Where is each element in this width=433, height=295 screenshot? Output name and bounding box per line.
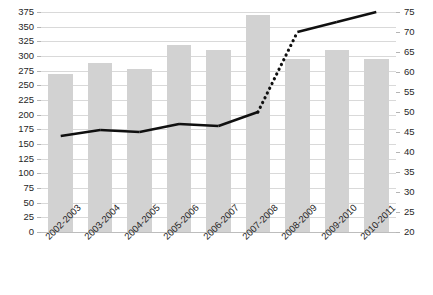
y-tick-label-right: 70 <box>404 27 415 37</box>
y-tick-right <box>396 232 400 233</box>
line-segment <box>140 124 179 132</box>
y-tick-label-left: 350 <box>18 22 34 32</box>
y-tick-right <box>396 92 400 93</box>
y-tick-label-left: 25 <box>23 212 34 222</box>
y-tick-label-right: 25 <box>404 207 415 217</box>
y-tick-right <box>396 192 400 193</box>
line-segment <box>258 32 297 112</box>
chart-title <box>0 0 433 2</box>
y-tick-label-left: 50 <box>23 198 34 208</box>
y-tick-label-right: 60 <box>404 67 415 77</box>
y-tick-right <box>396 172 400 173</box>
y-tick-label-right: 75 <box>404 7 415 17</box>
y-tick-label-right: 45 <box>404 127 415 137</box>
y-tick-right <box>396 112 400 113</box>
y-tick-label-right: 55 <box>404 87 415 97</box>
y-tick-right <box>396 52 400 53</box>
line-segment <box>100 130 139 132</box>
y-tick-label-left: 150 <box>18 139 34 149</box>
y-tick-label-left: 225 <box>18 95 34 105</box>
y-tick-label-left: 325 <box>18 36 34 46</box>
line-segment <box>219 112 258 126</box>
y-tick-label-left: 125 <box>18 154 34 164</box>
line-segment <box>179 124 218 126</box>
y-tick-right <box>396 32 400 33</box>
x-axis-labels: 2002-20032003-20042004-20052005-20062006… <box>41 234 396 294</box>
y-tick-label-left: 175 <box>18 124 34 134</box>
y-tick-label-right: 50 <box>404 107 415 117</box>
y-tick-label-left: 275 <box>18 66 34 76</box>
y-tick-right <box>396 12 400 13</box>
y-tick-label-left: 100 <box>18 168 34 178</box>
y-tick-label-left: 250 <box>18 80 34 90</box>
y-tick-label-left: 300 <box>18 51 34 61</box>
y-tick-label-right: 20 <box>404 227 415 237</box>
line-segment <box>337 12 376 22</box>
y-tick-label-left: 75 <box>23 183 34 193</box>
y-tick-right <box>396 72 400 73</box>
plot-area <box>41 12 396 232</box>
y-tick-label-right: 40 <box>404 147 415 157</box>
y-tick-right <box>396 152 400 153</box>
chart-container: 0255075100125150175200225250275300325350… <box>0 0 433 295</box>
y-tick-label-right: 30 <box>404 187 415 197</box>
y-tick-right <box>396 212 400 213</box>
y-tick-label-left: 200 <box>18 110 34 120</box>
y-tick-label-right: 65 <box>404 47 415 57</box>
y-tick-label-right: 35 <box>404 167 415 177</box>
y-tick-label-left: 375 <box>18 7 34 17</box>
line-segment <box>297 22 336 32</box>
line-series <box>41 12 396 232</box>
line-segment <box>61 130 100 136</box>
y-tick-label-left: 0 <box>29 227 34 237</box>
y-tick-right <box>396 132 400 133</box>
